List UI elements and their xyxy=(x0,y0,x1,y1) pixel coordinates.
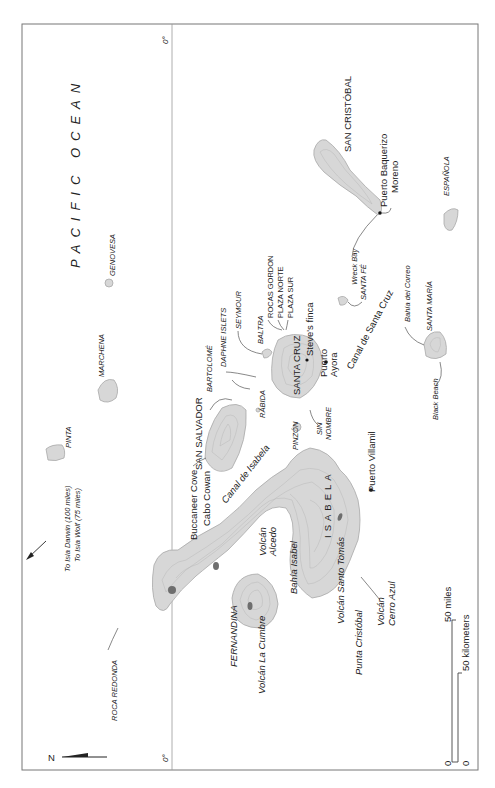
svg-text:ESPAÑOLA: ESPAÑOLA xyxy=(442,156,451,196)
svg-text:0: 0 xyxy=(442,761,453,766)
label-baltra: BALTRA xyxy=(256,315,265,344)
ocean-label: PACIFIC OCEAN xyxy=(68,77,83,268)
label-punta-cristobal: Punta Cristóbal xyxy=(353,609,364,675)
svg-text:SAN SALVADOR: SAN SALVADOR xyxy=(193,397,204,470)
svg-text:Moreno: Moreno xyxy=(389,161,400,193)
label-buccaneer-cove: Buccaneer Cove xyxy=(188,470,199,540)
equator-label-top: 0° xyxy=(161,36,170,44)
svg-text:PINTA: PINTA xyxy=(64,426,73,448)
svg-text:N: N xyxy=(48,752,55,763)
scale-bar: 50 miles 50 kilometers 0 0 xyxy=(442,586,471,766)
north-arrow-icon: N xyxy=(48,752,107,763)
svg-text:Steve's finca: Steve's finca xyxy=(304,302,315,356)
island-fernandina: FERNANDINA Volcán La Cumbre xyxy=(228,574,278,694)
offmap-note: To Isla Darwin (100 miles) To Isla Wolf … xyxy=(26,485,82,572)
label-plaza-norte: PLAZA NORTE xyxy=(276,266,285,318)
label-cabo-cowan: Cabo Cowan xyxy=(201,471,212,526)
svg-text:Ayora: Ayora xyxy=(328,352,339,377)
label-roca-redonda: ROCA REDONDA xyxy=(110,660,119,721)
galapagos-map: 0° 0° PACIFIC OCEAN N To Isla Darwin (10… xyxy=(0,0,495,788)
label-sin-nombre-1: SIN xyxy=(315,422,324,435)
label-daphne-islets: DAPHNE ISLETS xyxy=(219,308,228,367)
equator-label-bottom: 0° xyxy=(161,754,170,762)
island-pinta: PINTA xyxy=(46,426,73,460)
island-espanola: ESPAÑOLA xyxy=(442,156,458,230)
label-volcan-santo-tomas: Volcán Santo Tomás xyxy=(335,537,346,624)
label-wreck-bay: Wreck Bay xyxy=(350,247,359,285)
label-plaza-sur: PLAZA SUR xyxy=(286,276,295,318)
label-volcan-cerro-azul-2: Cerro Azul xyxy=(386,581,397,626)
svg-text:FERNANDINA: FERNANDINA xyxy=(228,605,239,667)
label-sin-nombre-2: NOMBRE xyxy=(324,406,333,440)
island-genovesa: GENOVESA xyxy=(105,234,117,287)
svg-text:SAN CRISTÓBAL: SAN CRISTÓBAL xyxy=(342,76,353,152)
svg-text:Black Beach: Black Beach xyxy=(431,378,440,420)
map-frame xyxy=(22,24,478,770)
svg-text:To Isla Wolf (75 miles): To Isla Wolf (75 miles) xyxy=(73,488,82,562)
svg-text:50 kilometers: 50 kilometers xyxy=(460,614,471,671)
label-pinzon: PINZÓN xyxy=(291,421,300,450)
svg-text:Puerto Villamil: Puerto Villamil xyxy=(366,431,377,492)
island-santa-fe xyxy=(338,296,348,305)
label-bartolome: BARTOLOMÉ xyxy=(205,344,214,392)
svg-text:MARCHENA: MARCHENA xyxy=(97,334,106,377)
svg-text:Bahía del Correo: Bahía del Correo xyxy=(403,265,412,322)
label-rabida: RÁBIDA xyxy=(258,390,267,418)
svg-text:SANTA MARÍA: SANTA MARÍA xyxy=(425,281,434,331)
svg-text:Canal de Santa Cruz: Canal de Santa Cruz xyxy=(344,288,395,371)
island-santa-maria: SANTA MARÍA Bahía del Correo Black Beach xyxy=(403,265,446,420)
svg-text:ISABELA: ISABELA xyxy=(322,470,333,538)
label-rocas-gordon: ROCAS GORDON xyxy=(266,255,275,318)
label-volcan-alcedo-2: Alcedo xyxy=(267,527,278,557)
label-bahia-isabel: Bahía Isabel xyxy=(288,540,299,594)
svg-text:To Isla Darwin (100 miles): To Isla Darwin (100 miles) xyxy=(63,485,72,572)
label-santa-fe: SANTA FÉ xyxy=(359,263,368,300)
svg-text:50 miles: 50 miles xyxy=(442,586,453,622)
svg-text:GENOVESA: GENOVESA xyxy=(108,234,117,276)
svg-text:Volcán La Cumbre: Volcán La Cumbre xyxy=(256,616,267,694)
island-san-cristobal: SAN CRISTÓBAL Puerto Baquerizo Moreno xyxy=(314,76,400,215)
leader-roca-redonda xyxy=(108,628,118,650)
svg-text:Puerto Baquerizo: Puerto Baquerizo xyxy=(378,134,389,207)
island-marchena: MARCHENA xyxy=(97,334,118,402)
label-volcan-cerro-azul-1: Volcán xyxy=(375,597,386,626)
svg-text:SANTA CRUZ: SANTA CRUZ xyxy=(291,335,302,395)
label-seymour: SEYMOUR xyxy=(234,290,243,329)
svg-text:0: 0 xyxy=(460,761,471,766)
